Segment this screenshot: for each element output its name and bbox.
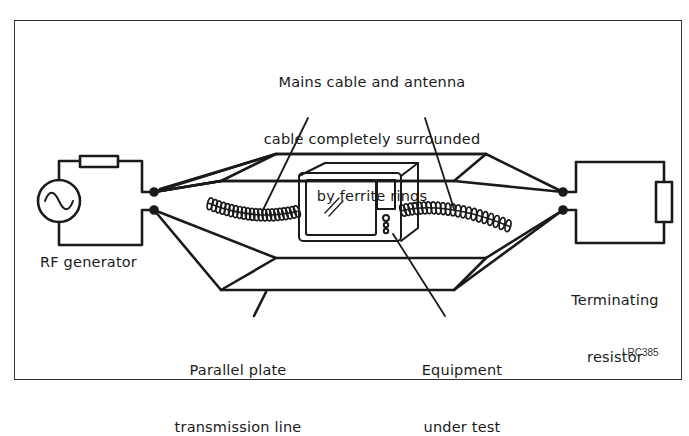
term-upper-wire [563,162,664,192]
terminal-left-bottom [151,207,158,214]
transmission-label-line-2: transmission line [168,418,308,436]
source-top-wire [59,161,80,180]
terminal-left-top [151,189,158,196]
term-lower-wire [563,210,664,243]
equipment-label-line-2: under test [412,418,512,436]
terminating-resistor-icon [656,182,672,222]
cables-label-line-2: cable completely surrounded [262,130,482,149]
cables-label-line-3: by ferrite rings [262,187,482,206]
rf-generator-circuit [38,156,154,245]
series-resistor-icon [80,156,118,167]
rf-generator-label: RF generator [40,253,160,272]
transmission-label-line-1: Parallel plate [168,361,308,380]
equipment-label: Equipment under test [412,323,512,436]
transmission-line-label: Parallel plate transmission line [168,323,308,436]
source-right-wire [118,161,154,192]
sine-wave-glyph [45,193,73,210]
leader-plate [254,292,266,316]
cables-label-line-1: Mains cable and antenna [262,73,482,92]
terminating-resistor-label: Terminating resistor [560,253,670,386]
cables-label: Mains cable and antenna cable completely… [262,35,482,225]
terminal-right-bottom [560,207,567,214]
figure-code: I RC385 [622,347,659,358]
leader-equipment [393,234,445,316]
equipment-label-line-1: Equipment [412,361,512,380]
terminal-right-top [560,189,567,196]
knob-3 [384,229,388,233]
terminating-label-line-1: Terminating [560,291,670,310]
terminating-circuit [563,162,672,243]
